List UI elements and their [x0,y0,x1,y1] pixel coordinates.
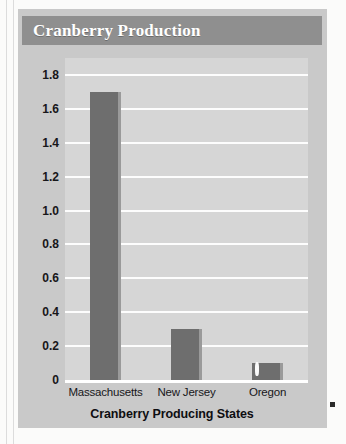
page-title: Cranberry Production [22,21,201,41]
scan-artifact-dark [330,402,335,407]
y-axis-tick-label: 1.6 [42,102,59,116]
y-axis-tick-label: 0 [52,373,59,387]
y-axis-tick-label: 0.8 [42,237,59,251]
y-axis-tick-label: 1.4 [42,136,59,150]
y-axis-tick-label: 1.8 [42,68,59,82]
bar-massachusetts [90,92,121,380]
y-axis-tick-label: 1.2 [42,170,59,184]
page-margin-rule-left [6,0,7,444]
y-axis-tick-label: 1.0 [42,204,59,218]
chart-title-banner: Cranberry Production [22,16,322,45]
x-axis-title: Cranberry Producing States [22,407,322,421]
chart-figure-card: Cranberry Production Barrels of Cranberr… [18,9,327,428]
y-axis-tick-label: 0.6 [42,271,59,285]
x-axis-tick-label: Massachusetts [68,386,142,398]
x-axis-tick-labels: MassachusettsNew JerseyOregon [65,383,308,403]
chart-plot-area: Barrels of Cranberries Harvested per Yea… [65,58,327,383]
bar-chart-plot [65,58,308,383]
page-margin-rule-inner [13,0,14,444]
x-axis-tick-label: Oregon [249,386,286,398]
x-axis-tick-label: New Jersey [157,386,215,398]
scan-artifact-light [255,362,259,376]
y-axis-tick-label: 0.2 [42,339,59,353]
y-axis-tick-label: 0.4 [42,305,59,319]
gridline [65,74,308,76]
bar-new-jersey [171,329,202,380]
